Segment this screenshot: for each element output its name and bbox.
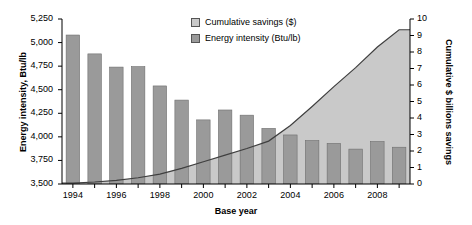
y-axis-right-tick-label: 4 [417,112,447,122]
x-axis-tick-label: 2002 [227,190,267,200]
bar-energy-intensity [197,120,210,184]
bar-energy-intensity [349,149,362,184]
y-axis-left-tick-label: 4,750 [13,60,53,70]
y-axis-right-tick-label: 0 [417,178,447,188]
y-axis-right-tick-label: 6 [417,79,447,89]
y-axis-left-tick-label: 4,250 [13,107,53,117]
legend-item-cumulative-savings: Cumulative savings ($) [191,16,301,28]
y-axis-right-tick-label: 2 [417,145,447,155]
bar-energy-intensity [327,143,340,184]
y-axis-left-tick-label: 3,750 [13,154,53,164]
x-axis-title: Base year [0,206,472,216]
x-axis-tick-label: 2000 [183,190,223,200]
x-axis-tick-label: 1996 [96,190,136,200]
y-axis-right-tick-label: 5 [417,96,447,106]
bar-energy-intensity [392,147,405,184]
bar-energy-intensity [305,141,318,184]
y-axis-left-tick-label: 4,000 [13,131,53,141]
y-axis-right-tick-label: 9 [417,30,447,40]
y-axis-right-tick-label: 10 [417,13,447,23]
bar-energy-intensity [131,67,144,184]
x-axis-tick-label: 2004 [270,190,310,200]
legend-swatch-cumulative-savings [191,18,200,27]
x-axis-tick-label: 2008 [357,190,397,200]
bar-energy-intensity [153,86,166,184]
y-axis-right-tick-label: 8 [417,46,447,56]
legend-item-energy-intensity: Energy intensity (Btu/lb) [191,32,301,44]
bar-energy-intensity [88,54,101,184]
y-axis-right-tick-label: 3 [417,129,447,139]
y-axis-left-tick-label: 5,250 [13,13,53,23]
y-axis-right-tick-label: 1 [417,162,447,172]
y-axis-left-tick-label: 3,500 [13,178,53,188]
bar-energy-intensity [262,128,275,184]
bar-energy-intensity [218,110,231,184]
y-axis-left-tick-label: 4,500 [13,84,53,94]
x-axis-tick-label: 2006 [314,190,354,200]
x-axis-tick-label: 1994 [53,190,93,200]
y-axis-left-tick-label: 5,000 [13,37,53,47]
bar-energy-intensity [66,35,79,184]
y-axis-right-tick-label: 7 [417,63,447,73]
legend-label-energy-intensity: Energy intensity (Btu/lb) [205,33,301,43]
x-axis-tick-label: 1998 [140,190,180,200]
bar-energy-intensity [284,135,297,184]
bar-energy-intensity [110,67,123,184]
legend-label-cumulative-savings: Cumulative savings ($) [205,17,297,27]
bar-energy-intensity [371,142,384,184]
chart-legend: Cumulative savings ($) Energy intensity … [191,16,301,48]
legend-swatch-energy-intensity [191,34,200,43]
chart-container: Energy intensity, Btu/lb Cumulative $ bi… [0,0,472,225]
bar-energy-intensity [175,100,188,184]
